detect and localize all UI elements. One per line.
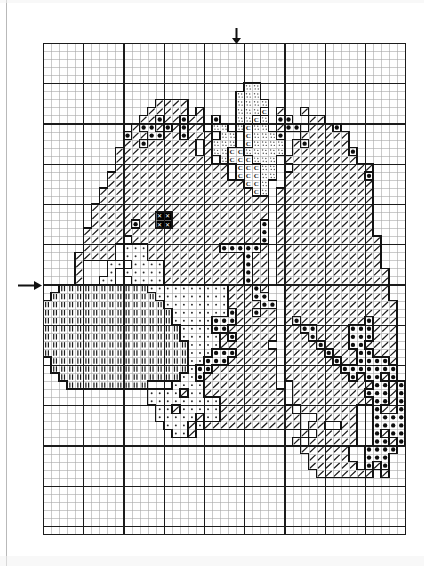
svg-text:C: C — [238, 164, 243, 172]
center-column-marker-arrow — [231, 28, 242, 44]
svg-text:C: C — [254, 188, 259, 196]
svg-text:C: C — [246, 124, 251, 132]
svg-text:C: C — [246, 172, 251, 180]
center-row-marker-arrow — [18, 280, 42, 291]
stitch-grid-canvas[interactable]: CCCCCCCCCCCCCCCCCCC✕✕✕✕ — [43, 43, 406, 535]
svg-text:C: C — [230, 156, 235, 164]
svg-text:C: C — [246, 164, 251, 172]
svg-text:C: C — [238, 148, 243, 156]
svg-text:C: C — [238, 156, 243, 164]
svg-text:C: C — [246, 132, 251, 140]
page-edge-rule — [6, 0, 7, 566]
cross-stitch-chart: CCCCCCCCCCCCCCCCCCC✕✕✕✕ — [0, 0, 424, 566]
stitch-grid[interactable]: CCCCCCCCCCCCCCCCCCC✕✕✕✕ — [43, 43, 405, 534]
svg-text:C: C — [246, 140, 251, 148]
svg-text:C: C — [254, 180, 259, 188]
svg-text:✕: ✕ — [165, 212, 170, 219]
svg-text:C: C — [246, 180, 251, 188]
svg-text:C: C — [238, 172, 243, 180]
svg-text:C: C — [254, 116, 259, 124]
svg-text:✕: ✕ — [157, 212, 162, 219]
svg-text:C: C — [262, 108, 267, 116]
scan-noise-band-bottom — [0, 556, 424, 566]
scan-noise-band-top — [0, 0, 424, 3]
svg-text:C: C — [246, 156, 251, 164]
svg-text:C: C — [254, 164, 259, 172]
svg-text:✕: ✕ — [165, 221, 170, 228]
svg-text:C: C — [230, 148, 235, 156]
svg-text:C: C — [254, 172, 259, 180]
svg-text:✕: ✕ — [157, 221, 162, 228]
